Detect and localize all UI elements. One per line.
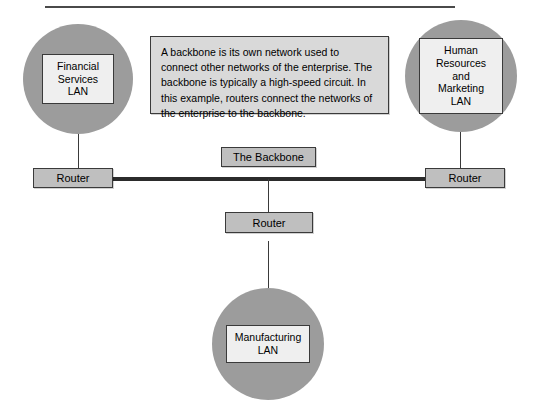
description-text: A backbone is its own network used to co… [161, 46, 372, 119]
lan-label-line: Human [426, 44, 496, 57]
router-right: Router [425, 168, 505, 188]
backbone-label-text: The Backbone [233, 151, 304, 163]
top-divider-rule [45, 6, 455, 8]
lan-label-manufacturing: Manufacturing LAN [226, 325, 310, 363]
lan-label-line: Manufacturing [233, 331, 303, 344]
diagram-canvas: A backbone is its own network used to co… [0, 0, 536, 403]
router-bottom: Router [225, 212, 313, 233]
lan-label-line: LAN [49, 85, 107, 98]
lan-node-financial: Financial Services LAN [23, 24, 133, 134]
description-panel: A backbone is its own network used to co… [150, 36, 389, 114]
lan-label-hr-marketing: Human Resources and Marketing LAN [419, 38, 503, 114]
lan-label-line: Services [49, 73, 107, 86]
lan-label-line: LAN [233, 344, 303, 357]
router-right-label: Router [448, 172, 481, 184]
router-bottom-label: Router [252, 217, 285, 229]
connector-router-bottom-to-manufacturing [268, 241, 269, 289]
lan-label-line: Marketing [426, 82, 496, 95]
lan-label-line: Resources and [426, 57, 496, 83]
lan-label-line: LAN [426, 95, 496, 108]
router-left-label: Router [56, 172, 89, 184]
lan-node-manufacturing: Manufacturing LAN [212, 288, 324, 400]
lan-node-hr-marketing: Human Resources and Marketing LAN [405, 20, 517, 132]
lan-label-financial: Financial Services LAN [42, 54, 114, 104]
backbone-trunk-line [113, 177, 425, 181]
lan-label-line: Financial [49, 60, 107, 73]
router-left: Router [33, 168, 113, 188]
backbone-label-box: The Backbone [221, 147, 316, 167]
connector-backbone-to-router-bottom [268, 179, 269, 212]
